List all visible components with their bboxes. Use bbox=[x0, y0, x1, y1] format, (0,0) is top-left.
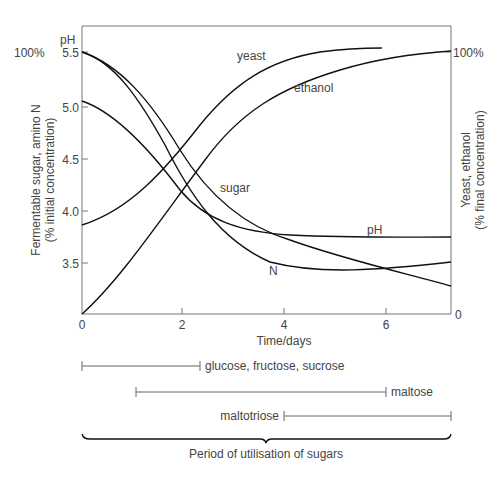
left-axis-title-line1: Fermentable sugar, amino N bbox=[29, 104, 43, 255]
bar-label-maltotriose: maltotriose bbox=[220, 409, 279, 423]
right-axis-title-line2: (% final concentration) bbox=[473, 110, 487, 229]
label-N: N bbox=[269, 264, 278, 278]
tick-label-4.0: 4.0 bbox=[62, 205, 79, 219]
left-axis-ticks bbox=[82, 52, 88, 263]
x-tick-label-6: 6 bbox=[383, 318, 390, 332]
left-100-percent-label: 100% bbox=[14, 46, 45, 60]
ph-unit-label: pH bbox=[60, 33, 75, 47]
tick-label-5.0: 5.0 bbox=[62, 101, 79, 115]
right-100-percent-label: 100% bbox=[453, 46, 484, 60]
utilisation-brace bbox=[82, 434, 451, 443]
left-axis-title-line2: (% initial concentration) bbox=[43, 118, 57, 243]
left-axis-title: Fermentable sugar, amino N (% initial co… bbox=[29, 104, 57, 255]
label-sugar: sugar bbox=[220, 181, 250, 195]
curve-yeast bbox=[82, 48, 382, 225]
x-tick-label-2: 2 bbox=[179, 318, 186, 332]
right-axis-title: Yeast, ethanol (% final concentration) bbox=[459, 110, 487, 229]
label-yeast: yeast bbox=[237, 49, 266, 63]
tick-label-3.5: 3.5 bbox=[62, 257, 79, 271]
x-axis-title: Time/days bbox=[257, 334, 312, 348]
tick-label-5.5: 5.5 bbox=[62, 46, 79, 60]
brace-label: Period of utilisation of sugars bbox=[189, 447, 343, 461]
right-0-label: 0 bbox=[455, 308, 462, 322]
bar-label-maltose: maltose bbox=[391, 385, 433, 399]
label-ethanol: ethanol bbox=[294, 81, 333, 95]
fermentation-chart: pH 100% 5.5 5.0 4.5 4.0 3.5 Fermentable … bbox=[0, 0, 499, 479]
bar-label-glucose-fructose-sucrose: glucose, fructose, sucrose bbox=[205, 359, 345, 373]
x-tick-label-4: 4 bbox=[281, 318, 288, 332]
curve-pH bbox=[82, 101, 451, 237]
tick-label-4.5: 4.5 bbox=[62, 153, 79, 167]
label-pH: pH bbox=[367, 223, 382, 237]
x-axis-ticks bbox=[182, 308, 386, 314]
right-axis-title-line1: Yeast, ethanol bbox=[459, 132, 473, 208]
x-tick-label-0: 0 bbox=[79, 318, 86, 332]
